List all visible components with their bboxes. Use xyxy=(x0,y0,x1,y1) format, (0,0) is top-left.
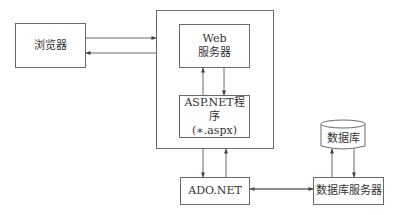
database-label: 数据库 xyxy=(321,129,365,145)
connector-lines xyxy=(0,0,393,215)
